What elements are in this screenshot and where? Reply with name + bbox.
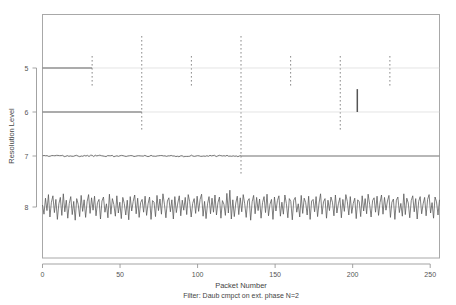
x-tick-label-200: 200 xyxy=(347,271,359,278)
filter-caption: Filter: Daub cmpct on ext. phase N=2 xyxy=(183,292,299,300)
y-tick-label-8: 8 xyxy=(25,204,29,211)
x-tick-label-0: 0 xyxy=(41,271,45,278)
x-tick-label-100: 100 xyxy=(192,271,204,278)
y-tick-label-7: 7 xyxy=(25,153,29,160)
y-axis-title: Resolution Level xyxy=(7,108,16,164)
x-axis-title: Packet Number xyxy=(215,281,267,290)
x-tick-label-150: 150 xyxy=(269,271,281,278)
y-tick-label-6: 6 xyxy=(25,109,29,116)
chart-container: Wavelet Packet Decomposition 05010015020… xyxy=(0,0,456,305)
wavelet-packet-plot: 050100150200250 5678 Packet Number Filte… xyxy=(0,0,456,305)
x-tick-label-250: 250 xyxy=(424,271,436,278)
y-tick-label-5: 5 xyxy=(25,65,29,72)
plot-background xyxy=(0,0,456,305)
x-tick-label-50: 50 xyxy=(116,271,124,278)
